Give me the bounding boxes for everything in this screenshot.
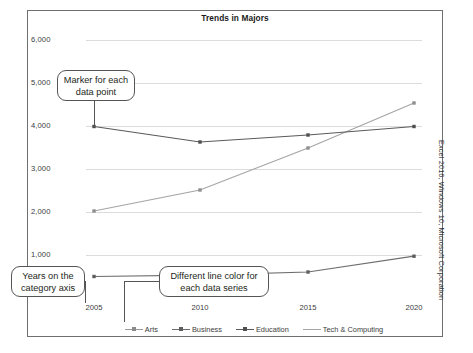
- chart-svg: [86, 40, 422, 294]
- x-tick-label-2010: 2010: [177, 303, 223, 312]
- plot-area: [86, 40, 422, 294]
- y-tick-label-2000: 2,000: [31, 207, 51, 216]
- legend-label-arts: Arts: [145, 325, 158, 334]
- legend-swatch-business: [172, 325, 190, 333]
- color-callout: Different line color for each data serie…: [159, 266, 269, 297]
- chart-legend: Arts Business Education Tech & Computing: [86, 322, 422, 336]
- series-markers-education: [92, 125, 415, 144]
- source-credit: Excel 2016, Windows 10, Microsoft Corpor…: [437, 140, 446, 330]
- y-tick-label-3000: 3,000: [31, 164, 51, 173]
- gridlines: [86, 41, 422, 256]
- x-tick-label-2005: 2005: [71, 303, 117, 312]
- x-tick-label-2020: 2020: [391, 303, 437, 312]
- y-tick-label-5000: 5,000: [31, 78, 51, 87]
- legend-swatch-education: [236, 325, 254, 333]
- marker-callout-line1: Marker for each: [64, 75, 128, 85]
- figure-container: Trends in Majors 6,000 5,000 4,000 3,000…: [0, 0, 473, 353]
- legend-label-education: Education: [256, 325, 289, 334]
- legend-item-education[interactable]: Education: [236, 325, 289, 334]
- marker-callout-line2: data point: [76, 87, 116, 97]
- legend-swatch-tech-computing: [303, 325, 321, 333]
- marker-callout: Marker for each data point: [57, 70, 135, 101]
- years-callout-line2: category axis: [21, 283, 75, 293]
- y-tick-label-1000: 1,000: [31, 250, 51, 259]
- y-tick-label-4000: 4,000: [31, 121, 51, 130]
- years-callout: Years on the category axis: [11, 266, 85, 297]
- legend-label-business: Business: [192, 325, 222, 334]
- chart-title: Trends in Majors: [27, 13, 443, 23]
- legend-swatch-arts: [125, 325, 143, 333]
- legend-item-arts[interactable]: Arts: [125, 325, 158, 334]
- y-tick-label-6000: 6,000: [31, 35, 51, 44]
- legend-label-tech-computing: Tech & Computing: [323, 325, 383, 334]
- series-markers-tech-computing: [92, 101, 415, 212]
- color-callout-line1: Different line color for: [170, 271, 257, 281]
- legend-item-tech-computing[interactable]: Tech & Computing: [303, 325, 383, 334]
- years-callout-line1: Years on the: [22, 271, 73, 281]
- color-callout-line2: each data series: [180, 283, 247, 293]
- legend-item-business[interactable]: Business: [172, 325, 222, 334]
- series-line-education: [92, 125, 415, 144]
- x-tick-label-2015: 2015: [285, 303, 331, 312]
- series-line-tech-computing: [92, 101, 415, 212]
